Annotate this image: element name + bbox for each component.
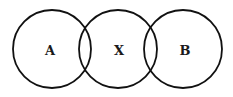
venn-diagram: A X B bbox=[0, 0, 233, 97]
label-b: B bbox=[180, 43, 191, 58]
label-a: A bbox=[44, 43, 56, 58]
label-x: X bbox=[114, 43, 125, 58]
